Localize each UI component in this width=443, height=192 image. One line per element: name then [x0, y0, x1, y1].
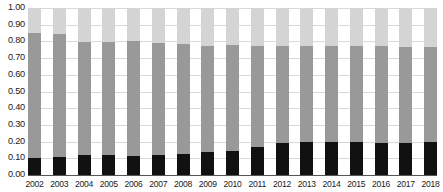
- x-axis-tick-label: 2010: [221, 177, 245, 191]
- bar-series-group: [28, 8, 437, 175]
- bar-segment-middle[interactable]: [28, 33, 41, 158]
- bar-segment-bottom[interactable]: [399, 143, 412, 175]
- bar-column[interactable]: [127, 8, 140, 175]
- bar-segment-top[interactable]: [177, 8, 190, 44]
- bar-segment-bottom[interactable]: [424, 142, 437, 175]
- bar-segment-top[interactable]: [152, 8, 165, 43]
- bar-column[interactable]: [201, 8, 214, 175]
- bar-segment-middle[interactable]: [226, 45, 239, 151]
- bar-segment-middle[interactable]: [78, 42, 91, 155]
- bar-column[interactable]: [177, 8, 190, 175]
- y-axis-tick-label: 0.10: [8, 154, 25, 163]
- bar-segment-top[interactable]: [300, 8, 313, 46]
- bar-column[interactable]: [251, 8, 264, 175]
- bar-column[interactable]: [399, 8, 412, 175]
- bar-column[interactable]: [226, 8, 239, 175]
- bar-segment-middle[interactable]: [201, 46, 214, 153]
- x-axis-tick-label: 2016: [369, 177, 393, 191]
- bar-column[interactable]: [350, 8, 363, 175]
- bar-segment-bottom[interactable]: [276, 143, 289, 175]
- bar-column[interactable]: [375, 8, 388, 175]
- x-axis-tick-label: 2008: [171, 177, 195, 191]
- y-axis-tick-label: 1.00: [8, 3, 25, 12]
- bar-segment-bottom[interactable]: [53, 157, 66, 175]
- bar-segment-bottom[interactable]: [251, 147, 264, 175]
- bar-segment-bottom[interactable]: [375, 143, 388, 175]
- bar-segment-top[interactable]: [399, 8, 412, 47]
- x-axis-tick-label: 2006: [122, 177, 146, 191]
- bar-segment-bottom[interactable]: [28, 158, 41, 175]
- bar-column[interactable]: [28, 8, 41, 175]
- bar-segment-middle[interactable]: [300, 46, 313, 142]
- bar-column[interactable]: [424, 8, 437, 175]
- bar-segment-middle[interactable]: [350, 46, 363, 143]
- bar-segment-bottom[interactable]: [325, 142, 338, 175]
- x-axis-tick-label: 2004: [72, 177, 96, 191]
- bar-segment-middle[interactable]: [102, 42, 115, 155]
- y-axis-tick-label: 0.70: [8, 53, 25, 62]
- bar-segment-bottom[interactable]: [350, 142, 363, 175]
- bar-segment-bottom[interactable]: [201, 152, 214, 175]
- x-axis-tick-label: 2007: [146, 177, 170, 191]
- bar-segment-middle[interactable]: [276, 46, 289, 144]
- bar-column[interactable]: [53, 8, 66, 175]
- bar-segment-top[interactable]: [53, 8, 66, 34]
- bar-segment-middle[interactable]: [375, 46, 388, 143]
- bar-column[interactable]: [300, 8, 313, 175]
- x-axis-tick-label: 2012: [270, 177, 294, 191]
- bar-segment-middle[interactable]: [424, 47, 437, 141]
- y-axis-tick-label: 0.60: [8, 70, 25, 79]
- x-axis-tick-label: 2017: [394, 177, 418, 191]
- y-axis-tick-label: 0.50: [8, 87, 25, 96]
- bar-segment-top[interactable]: [276, 8, 289, 46]
- y-axis-tick-label: 0.30: [8, 120, 25, 129]
- bar-column[interactable]: [78, 8, 91, 175]
- bar-segment-top[interactable]: [28, 8, 41, 33]
- bar-segment-top[interactable]: [350, 8, 363, 46]
- bar-segment-top[interactable]: [127, 8, 140, 41]
- plot-area: [28, 8, 437, 175]
- y-axis-tick-label: 0.20: [8, 137, 25, 146]
- x-axis-tick-label: 2014: [320, 177, 344, 191]
- bar-segment-bottom[interactable]: [127, 156, 140, 175]
- bar-segment-top[interactable]: [226, 8, 239, 45]
- bar-column[interactable]: [276, 8, 289, 175]
- x-axis-tick-label: 2011: [245, 177, 269, 191]
- bar-segment-bottom[interactable]: [226, 151, 239, 175]
- bar-segment-middle[interactable]: [152, 43, 165, 155]
- bar-segment-middle[interactable]: [127, 41, 140, 155]
- bar-segment-top[interactable]: [78, 8, 91, 42]
- bar-segment-bottom[interactable]: [102, 155, 115, 175]
- bar-segment-top[interactable]: [201, 8, 214, 46]
- x-axis-tick-label: 2015: [344, 177, 368, 191]
- bar-segment-top[interactable]: [424, 8, 437, 47]
- x-axis-tick-label: 2005: [97, 177, 121, 191]
- bar-segment-bottom[interactable]: [300, 142, 313, 175]
- bar-segment-bottom[interactable]: [78, 155, 91, 175]
- y-axis-tick-label: 0.40: [8, 104, 25, 113]
- bar-column[interactable]: [325, 8, 338, 175]
- bar-segment-top[interactable]: [251, 8, 264, 46]
- bar-segment-bottom[interactable]: [152, 155, 165, 175]
- x-axis-tick-label: 2018: [419, 177, 443, 191]
- x-axis-tick-label: 2013: [295, 177, 319, 191]
- x-axis-tick-label: 2002: [23, 177, 47, 191]
- x-axis: 2002200320042005200620072008200920102011…: [28, 177, 437, 192]
- bar-column[interactable]: [102, 8, 115, 175]
- x-axis-tick-label: 2009: [196, 177, 220, 191]
- bar-segment-middle[interactable]: [399, 47, 412, 143]
- x-axis-tick-label: 2003: [47, 177, 71, 191]
- y-axis-tick-label: 0.90: [8, 20, 25, 29]
- bar-segment-top[interactable]: [375, 8, 388, 46]
- bar-segment-middle[interactable]: [251, 46, 264, 148]
- bar-segment-middle[interactable]: [177, 44, 190, 154]
- y-axis-tick-label: 0.80: [8, 37, 25, 46]
- bar-segment-top[interactable]: [325, 8, 338, 46]
- bar-segment-top[interactable]: [102, 8, 115, 42]
- bar-segment-middle[interactable]: [325, 46, 338, 143]
- bar-segment-bottom[interactable]: [177, 154, 190, 175]
- axis-baseline: [28, 175, 437, 176]
- bar-segment-middle[interactable]: [53, 34, 66, 158]
- bar-column[interactable]: [152, 8, 165, 175]
